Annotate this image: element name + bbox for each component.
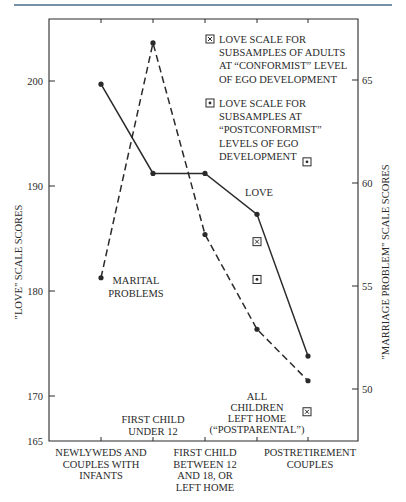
data-point <box>305 378 310 383</box>
annotation-marital: PROBLEMS <box>108 288 164 299</box>
x-category-label: LEFT HOME <box>176 482 234 493</box>
data-point <box>150 171 155 176</box>
y-axis-title-left: "LOVE" SCALE SCORES <box>13 204 24 319</box>
legend-text: OF EGO DEVELOPMENT <box>219 74 337 85</box>
legend-text: SUBSAMPLES OF ADULTS <box>219 47 345 58</box>
x-category-label: LEFT HOME <box>228 413 286 424</box>
legend-text: “POSTCONFORMIST” <box>219 124 322 135</box>
right-tick-label: 55 <box>362 281 373 292</box>
annotation-love: LOVE <box>245 187 273 198</box>
x-category-label: UNDER 12 <box>128 426 177 437</box>
x-category-label: FIRST CHILD <box>121 414 185 425</box>
left-tick-label: 200 <box>27 76 43 87</box>
left-tick-label: 170 <box>27 391 43 402</box>
legend-text: DEVELOPMENT <box>219 151 297 162</box>
chart: 16517018019020050556065"LOVE" SCALE SCOR… <box>0 0 406 502</box>
data-point <box>305 354 310 359</box>
data-point <box>202 232 207 237</box>
y-axis-title-right: "MARRIAGE PROBLEM" SCALE SCORES <box>380 164 391 359</box>
data-point <box>98 275 103 280</box>
postconformist-marker-icon-glyph <box>306 160 309 163</box>
legend-postconformist-icon-glyph <box>209 102 212 105</box>
left-tick-label: 190 <box>27 181 43 192</box>
data-point <box>254 327 259 332</box>
x-category-label: NEWLYWEDS AND <box>55 447 147 458</box>
left-tick-label: 180 <box>27 286 43 297</box>
x-category-label: FIRST CHILD <box>173 447 237 458</box>
x-category-label: COUPLES <box>287 459 334 470</box>
x-category-label: (“POSTPARENTAL”) <box>209 424 305 436</box>
right-tick-label: 50 <box>362 384 373 395</box>
x-category-label: POSTRETIREMENT <box>264 447 357 458</box>
right-tick-label: 60 <box>362 178 373 189</box>
x-category-label: COUPLES WITH <box>63 459 140 470</box>
marital-problems-line <box>101 43 308 381</box>
x-category-label: BETWEEN 12 <box>173 459 236 470</box>
right-tick-label: 65 <box>362 75 373 86</box>
legend-text: SUBSAMPLES AT <box>219 111 302 122</box>
legend-text: LEVELS OF EGO <box>219 138 299 149</box>
x-category-label: AND 18, OR <box>177 470 233 481</box>
x-category-label: CHILDREN <box>230 402 283 413</box>
legend-text: LOVE SCALE FOR <box>219 34 306 45</box>
left-tick-label: 165 <box>27 436 43 447</box>
x-category-label: INFANTS <box>79 470 123 481</box>
annotation-marital: MARITAL <box>113 275 160 286</box>
data-point <box>202 171 207 176</box>
data-point <box>254 212 259 217</box>
postconformist-marker-icon-glyph <box>256 278 259 281</box>
legend-text: LOVE SCALE FOR <box>219 98 306 109</box>
legend-text: AT “CONFORMIST” LEVEL <box>219 60 347 71</box>
x-category-label: ALL <box>247 391 267 402</box>
data-point <box>98 82 103 87</box>
data-point <box>150 40 155 45</box>
